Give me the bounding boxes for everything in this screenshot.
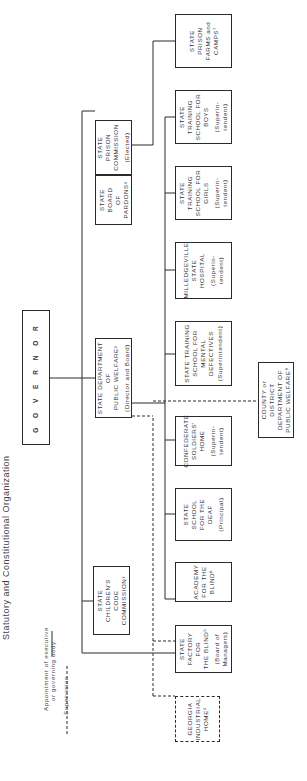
institution-training-girls: STATE TRAINING SCHOOL FOR GIRLS (Superin… <box>175 166 232 220</box>
institution-mental-defectives: STATE TRAINING SCHOOL FOR MENTAL DEFECTI… <box>175 321 232 386</box>
institution-name: ACADEMY FOR THE BLIND⁶ <box>192 565 216 600</box>
institution-name: MILLEDGEVILLE STATE HOSPITAL <box>182 243 206 299</box>
institution-name: STATE FACTORY FOR THE BLIND⁵ <box>178 628 210 670</box>
board-of-pardons-name: STATE BOARD OF PARDONS³ <box>98 178 130 222</box>
institution-name: STATE TRAINING SCHOOL FOR GIRLS <box>178 169 210 217</box>
governor-box: G O V E R N O R <box>22 310 50 445</box>
public-welfare-note: (Director and Board) <box>123 344 131 412</box>
institution-name: STATE TRAINING SCHOOL FOR MENTAL DEFECTI… <box>183 324 215 383</box>
public-welfare-box: STATE DEPARTMENT OF PUBLIC WELFARE² (Dir… <box>95 338 132 418</box>
institution-confederate-home: CONFEDERATE SOLDIERS' HOME (Superin- ten… <box>175 416 232 466</box>
institution-milledgeville: MILLEDGEVILLE STATE HOSPITAL (Superin- t… <box>175 242 232 299</box>
institution-note: (Superin- tendent) <box>213 178 229 209</box>
institution-prison-farms: STATE PRISON FARMS and CAMPS⁷ <box>175 14 232 68</box>
institution-name: STATE TRAINING SCHOOL FOR BOYS <box>178 93 210 141</box>
institution-note: (Board of Managers) <box>213 632 229 667</box>
governor-label: G O V E R N O R <box>32 322 40 433</box>
county-welfare-name: COUNTY or DISTRICT DEPARTMENT OF PUBLIC … <box>260 365 292 435</box>
institution-training-boys: STATE TRAINING SCHOOL FOR BOYS (Superin-… <box>175 90 232 144</box>
institution-note: (Superin- tendent) <box>213 102 229 133</box>
legend-appointment-line1: Appointment of executive <box>42 627 49 711</box>
institution-note: (Superintendent) <box>216 326 224 382</box>
prison-commission-note: (Elected) <box>123 132 131 162</box>
institution-name: GEORGIA INDUSTRIAL HOME⁴ <box>186 698 210 741</box>
prison-commission-box: STATE PRISON COMMISSION (Elected) <box>95 120 132 175</box>
county-welfare-box: COUNTY or DISTRICT DEPARTMENT OF PUBLIC … <box>258 362 294 438</box>
institution-note: (Principal) <box>217 497 225 531</box>
institution-name: CONFEDERATE SOLDIERS' HOME <box>182 415 206 468</box>
institution-name: STATE PRISON FARMS and CAMPS⁷ <box>188 17 220 65</box>
institution-georgia-industrial-home: GEORGIA INDUSTRIAL HOME⁴ <box>175 696 220 742</box>
institution-academy-blind: ACADEMY FOR THE BLIND⁶ <box>175 562 232 602</box>
institution-factory-blind: STATE FACTORY FOR THE BLIND⁵ (Board of M… <box>175 625 232 673</box>
childrens-code-box: STATE CHILDREN'S CODE COMMISSION¹ <box>93 566 130 635</box>
legend-appointment: Appointment of executive or governing bo… <box>42 627 56 711</box>
board-of-pardons-box: STATE BOARD OF PARDONS³ <box>95 175 132 225</box>
institution-school-deaf: STATE SCHOOL FOR THE DEAF (Principal) <box>175 488 232 541</box>
institution-note: (Superin- tendent) <box>209 426 225 457</box>
legend-appointment-line2: or governing body <box>49 641 56 711</box>
public-welfare-name: STATE DEPARTMENT OF PUBLIC WELFARE² <box>96 341 120 415</box>
childrens-code-name: STATE CHILDREN'S CODE COMMISSION¹ <box>96 569 128 632</box>
legend-supervision: Supervision <box>62 676 69 715</box>
prison-commission-name: STATE PRISON COMMISSION <box>96 123 120 172</box>
chart-title: Statutory and Constitutional Organizatio… <box>1 340 11 640</box>
institution-note: (Superin- tendent) <box>209 255 225 286</box>
org-chart: Statutory and Constitutional Organizatio… <box>0 0 307 781</box>
institution-name: STATE SCHOOL FOR THE DEAF <box>182 491 214 538</box>
